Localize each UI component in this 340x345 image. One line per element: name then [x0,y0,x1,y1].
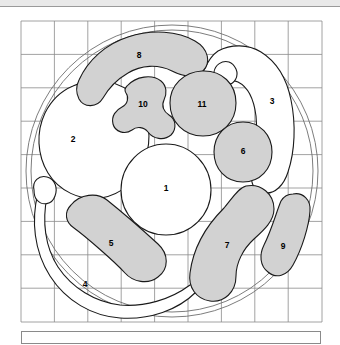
region-4-tail[interactable] [34,177,56,204]
figure-canvas: 1 2 3 4 5 6 7 8 9 10 11 [0,8,340,323]
region-label-7: 7 [225,240,230,250]
region-label-4: 4 [83,279,88,289]
region-label-11: 11 [198,99,207,109]
region-label-1: 1 [164,183,169,193]
region-label-5: 5 [109,238,114,248]
top-rule [0,6,340,7]
caption-box [21,331,321,344]
diagram-svg: 1 2 3 4 5 6 7 8 9 10 11 [0,8,340,323]
region-label-2: 2 [71,134,76,144]
region-label-6: 6 [241,146,246,156]
region-label-10: 10 [138,99,148,109]
region-label-8: 8 [137,50,142,60]
region-label-9: 9 [281,241,286,251]
region-label-3: 3 [270,96,275,106]
figure-page: 1 2 3 4 5 6 7 8 9 10 11 [0,0,340,345]
